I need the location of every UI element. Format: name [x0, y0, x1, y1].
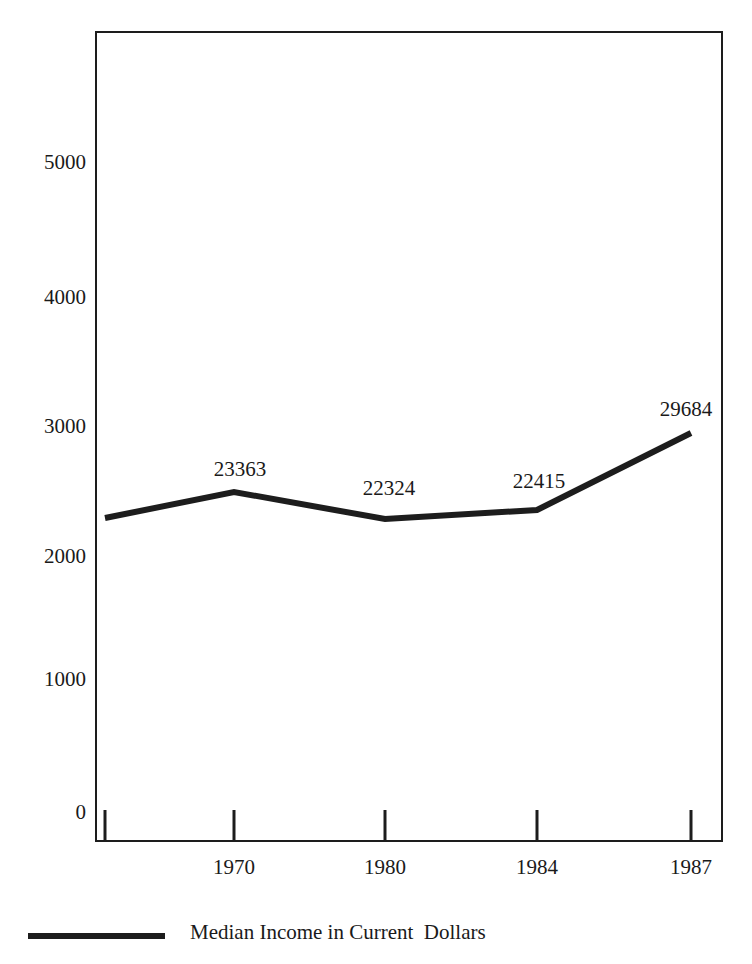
data-point-label: 22415 [479, 470, 599, 492]
legend-label: Median Income in Current Dollars [190, 920, 486, 944]
legend-line-swatch [28, 933, 165, 939]
data-point-labels: 23363 22324 22415 29684 [0, 0, 752, 964]
data-point-label: 22324 [329, 477, 449, 499]
chart-legend: Median Income in Current Dollars [0, 912, 752, 958]
data-point-label: 29684 [626, 398, 746, 420]
data-point-label: 23363 [180, 458, 300, 480]
